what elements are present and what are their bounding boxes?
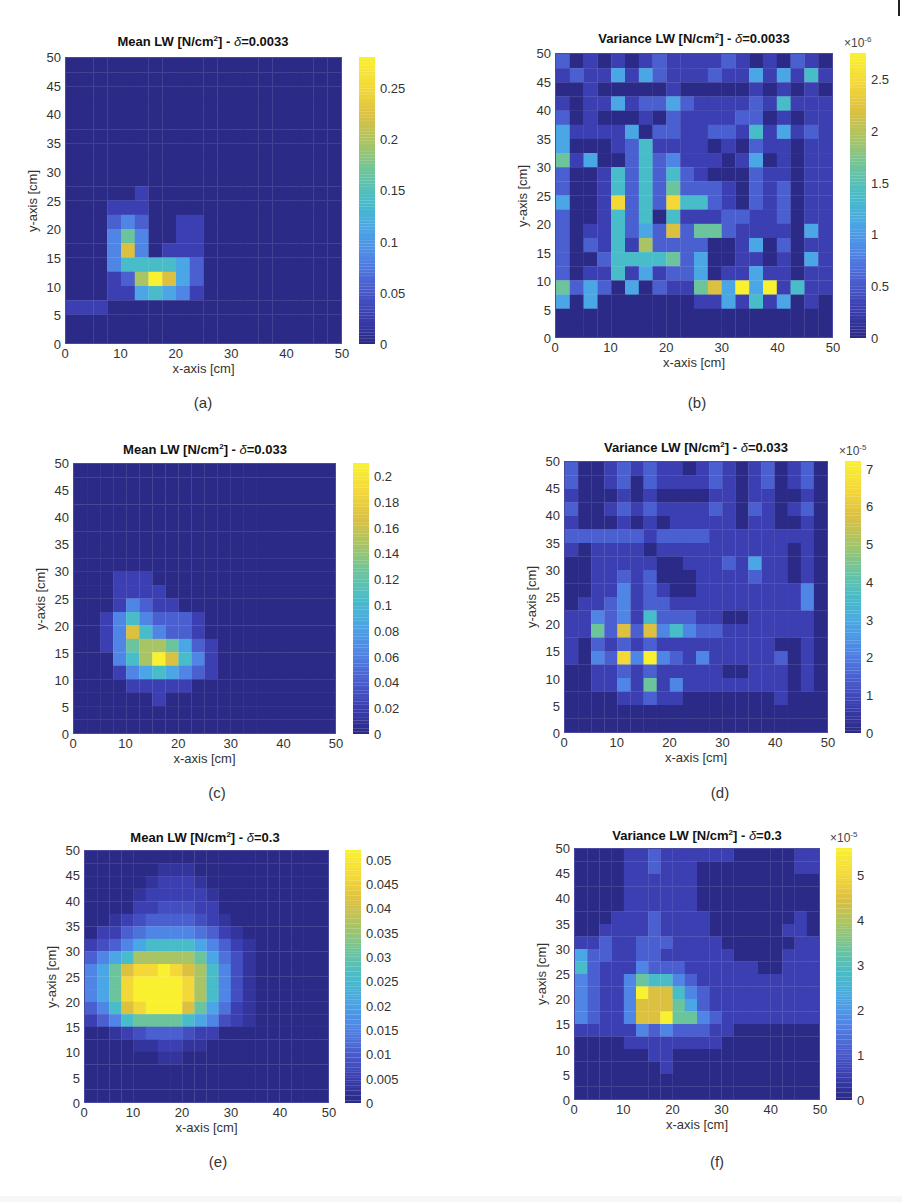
heatmap-cell <box>243 851 255 864</box>
heatmap-cell <box>807 937 819 950</box>
heatmap-cell <box>762 665 775 679</box>
heatmap-cell <box>149 215 163 230</box>
heatmap-cell <box>721 1049 733 1062</box>
heatmap-cell <box>657 651 670 665</box>
heatmap-cell <box>191 652 204 666</box>
heatmap-cell <box>286 72 300 87</box>
heatmap-cell <box>565 462 578 476</box>
title-text: Variance LW [N/cm <box>598 31 714 46</box>
heatmap-cell <box>694 181 708 195</box>
y-tick-label: 50 <box>55 456 73 471</box>
heatmap-cell <box>804 139 818 153</box>
y-tick-label: 20 <box>66 994 84 1009</box>
heatmap-cell <box>87 504 100 518</box>
heatmap-cell <box>121 229 135 244</box>
heatmap-cell <box>97 1027 109 1040</box>
heatmap-cell <box>599 874 611 887</box>
heatmap-cell <box>762 611 775 625</box>
heatmap-cell <box>748 705 761 719</box>
heatmap-cell <box>666 210 680 224</box>
heatmap-cell <box>617 651 630 665</box>
heatmap-cell <box>194 914 206 927</box>
heatmap-cell <box>758 1087 770 1100</box>
heatmap-cell <box>296 666 309 680</box>
colorbar-segment <box>850 227 866 230</box>
heatmap-cell <box>735 489 748 503</box>
heatmap-cell <box>697 974 709 987</box>
heatmap-cell <box>292 1052 304 1065</box>
colorbar-segment <box>345 1075 361 1078</box>
heatmap-cell <box>709 849 721 862</box>
heatmap-cell <box>565 597 578 611</box>
heatmap-cell <box>801 503 814 517</box>
heatmap-cell <box>314 272 328 287</box>
heatmap-cell <box>100 572 113 586</box>
colorbar-segment <box>359 258 375 261</box>
colorbar-segment <box>353 517 369 520</box>
heatmap-cell <box>204 243 218 258</box>
heatmap-cell <box>217 272 231 287</box>
colorbar-segment <box>850 67 866 70</box>
heatmap-cell <box>795 849 807 862</box>
heatmap-cell <box>218 504 231 518</box>
heatmap-cell <box>599 1049 611 1062</box>
heatmap-cell <box>807 1037 819 1050</box>
heatmap-cell <box>814 705 827 719</box>
heatmap-cell <box>244 666 257 680</box>
chart-title: Variance LW [N/cm2] - δ=0.3 <box>612 828 782 843</box>
heatmap-cell <box>219 889 231 902</box>
heatmap-cell <box>231 989 243 1002</box>
colorbar-segment <box>845 613 861 616</box>
y-tick-label: 15 <box>47 250 65 265</box>
heatmap-cell <box>139 491 152 505</box>
heatmap-cell <box>763 224 777 238</box>
colorbar-segment <box>353 691 369 694</box>
heatmap-cell <box>97 914 109 927</box>
heatmap-cell <box>80 158 94 173</box>
colorbar-segment <box>345 928 361 931</box>
heatmap-cell <box>66 186 80 201</box>
heatmap-cell <box>625 295 639 309</box>
heatmap-cell <box>194 1027 206 1040</box>
heatmap-cell <box>565 651 578 665</box>
colorbar-segment <box>836 1002 852 1005</box>
heatmap-cell <box>775 705 788 719</box>
heatmap-cell <box>74 679 87 693</box>
heatmap-cell <box>170 914 182 927</box>
heatmap-cell <box>639 280 653 294</box>
heatmap-cell <box>680 153 694 167</box>
colorbar-segment <box>845 477 861 480</box>
heatmap-cell <box>292 989 304 1002</box>
heatmap-cell <box>182 926 194 939</box>
heatmap-cell <box>673 924 685 937</box>
heatmap-cell <box>107 158 121 173</box>
heatmap-cell <box>121 889 133 902</box>
heatmap-cell <box>270 639 283 653</box>
heatmap-cell <box>639 224 653 238</box>
heatmap-cell <box>587 862 599 875</box>
heatmap-cell <box>134 964 146 977</box>
heatmap-cell <box>631 705 644 719</box>
heatmap-cell <box>734 874 746 887</box>
heatmap-cell <box>722 584 735 598</box>
heatmap-cell <box>624 974 636 987</box>
heatmap-cell <box>149 243 163 258</box>
x-tick-label: 0 <box>69 736 76 751</box>
colorbar-tick-label: 2 <box>852 1003 864 1018</box>
heatmap-cell <box>735 624 748 638</box>
heatmap-cell <box>87 625 100 639</box>
heatmap-cell <box>631 624 644 638</box>
colorbar-tick-label: 4 <box>861 574 873 589</box>
heatmap-cell <box>694 68 708 82</box>
heatmap-cell <box>683 557 696 571</box>
heatmap-cell <box>243 951 255 964</box>
colorbar-segment <box>845 605 861 608</box>
heatmap-cell <box>673 1024 685 1037</box>
heatmap-cell <box>782 1074 794 1087</box>
heatmap-cell <box>599 1024 611 1037</box>
colorbar-segment <box>845 524 861 527</box>
heatmap-cell <box>121 286 135 301</box>
y-axis-label: y-axis [cm] <box>524 566 539 628</box>
heatmap-cell <box>194 1064 206 1077</box>
heatmap-cell <box>801 584 814 598</box>
